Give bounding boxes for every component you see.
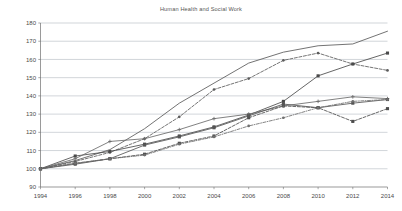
y-tick-label-100: 100	[26, 166, 37, 172]
data-point-marker	[351, 120, 354, 123]
data-point-marker	[351, 100, 354, 103]
series-line-series-4	[41, 53, 388, 169]
data-point-marker	[213, 136, 216, 139]
x-axis-ticks-group: 1994199619982000200220042006200820102012…	[34, 187, 395, 199]
data-point-marker	[108, 150, 111, 153]
data-point-marker	[74, 162, 77, 165]
x-tick-label-2010: 2010	[311, 193, 325, 199]
y-tick-label-170: 170	[26, 38, 37, 44]
y-tick-label-110: 110	[26, 148, 36, 154]
series-line-series-1	[41, 31, 388, 169]
data-point-marker	[282, 59, 285, 62]
data-point-marker	[386, 98, 389, 101]
data-point-marker	[212, 117, 216, 121]
data-point-marker	[178, 128, 182, 132]
data-point-marker	[317, 74, 320, 77]
x-tick-label-1998: 1998	[103, 193, 117, 199]
data-point-marker	[178, 115, 181, 118]
data-point-marker	[108, 140, 112, 144]
data-point-marker	[109, 157, 112, 160]
x-tick-label-2000: 2000	[138, 193, 152, 199]
data-point-marker	[178, 143, 181, 146]
data-point-marker	[317, 106, 320, 109]
data-point-marker	[212, 126, 215, 129]
y-tick-label-120: 120	[26, 129, 37, 135]
x-tick-label-2006: 2006	[242, 193, 256, 199]
data-point-marker	[143, 144, 146, 147]
y-axis-ticks-group: 90100110120130140150160170180	[26, 20, 41, 190]
x-tick-label-2004: 2004	[207, 193, 221, 199]
y-tick-label-140: 140	[26, 93, 37, 99]
data-point-marker	[351, 95, 355, 99]
data-point-marker	[386, 69, 389, 72]
series-line-series-6	[41, 100, 388, 169]
series-line-series-5	[41, 97, 388, 169]
x-tick-label-2014: 2014	[381, 193, 395, 199]
x-tick-label-1996: 1996	[69, 193, 83, 199]
data-point-marker	[247, 77, 250, 80]
y-tick-label-160: 160	[26, 57, 37, 63]
series-line-series-7	[41, 100, 388, 169]
data-point-marker	[282, 100, 285, 103]
data-point-marker	[213, 88, 216, 91]
x-tick-label-2002: 2002	[173, 193, 187, 199]
series-line-series-3	[41, 53, 388, 169]
x-tick-label-2008: 2008	[277, 193, 291, 199]
y-tick-label-130: 130	[26, 111, 37, 117]
y-tick-label-90: 90	[29, 184, 36, 190]
data-point-marker	[143, 154, 146, 157]
data-point-marker	[351, 62, 354, 65]
data-point-marker	[178, 135, 181, 138]
x-tick-label-1994: 1994	[34, 193, 48, 199]
line-chart-plot: 90100110120130140150160170180 1994199619…	[0, 0, 402, 211]
chart-container: Human Health and Social Work 90100110120…	[0, 0, 402, 211]
x-tick-label-2012: 2012	[346, 193, 360, 199]
data-point-marker	[386, 107, 389, 110]
data-point-marker	[282, 116, 285, 119]
data-point-marker	[316, 100, 320, 104]
data-point-marker	[282, 103, 285, 106]
series-lines-group	[41, 31, 388, 169]
data-point-marker	[247, 125, 250, 128]
data-point-marker	[247, 114, 250, 117]
y-tick-label-180: 180	[26, 20, 37, 26]
data-point-marker	[317, 52, 320, 55]
data-point-marker	[386, 52, 389, 55]
y-tick-label-150: 150	[26, 75, 37, 81]
